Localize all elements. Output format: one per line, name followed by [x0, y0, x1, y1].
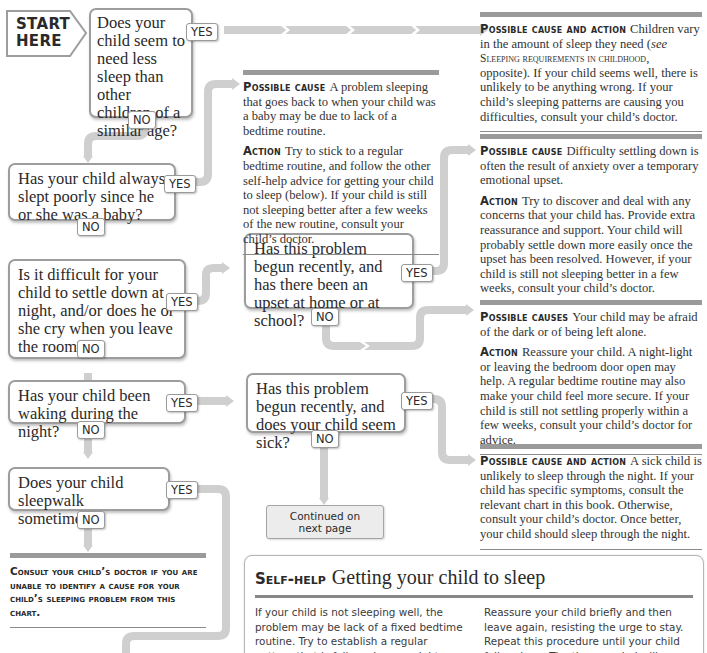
- question-recent-sick: Has this problem begun recently, and doe…: [246, 373, 406, 433]
- yes-tag: YES: [166, 293, 198, 311]
- result-divider: [243, 254, 439, 255]
- result-top-bar: [243, 70, 439, 75]
- yes-tag: YES: [166, 481, 198, 499]
- self-help-divider: [255, 595, 693, 598]
- result-top-bar: [480, 300, 702, 305]
- start-here-marker: START HERE: [6, 10, 86, 56]
- self-help-panel: Self-help Getting your child to sleep If…: [244, 555, 704, 653]
- yes-tag: YES: [164, 175, 196, 193]
- question-text: Does your child sleepwalk sometimes?: [18, 473, 123, 528]
- self-help-columns: If your child is not sleeping well, the …: [255, 605, 693, 653]
- result-top-bar: [480, 444, 702, 449]
- result-always-poor-sleeper: Possible causeA problem sleeping that go…: [243, 70, 439, 255]
- question-less-sleep: Does your child seem to need less sleep …: [89, 8, 193, 118]
- continued-next-page[interactable]: Continued on next page: [266, 505, 384, 539]
- action-text: Try to stick to a regular bedtime routin…: [243, 144, 434, 246]
- no-tag: NO: [128, 111, 156, 129]
- start-here-label: START HERE: [16, 16, 70, 50]
- result-label: Possible cause and action: [480, 22, 626, 36]
- continued-line1: Continued on: [267, 510, 383, 522]
- result-afraid-dark: Possible causesYour child may be afraid …: [480, 300, 702, 455]
- question-text: Has your child always slept poorly since…: [18, 169, 165, 224]
- no-tag: NO: [77, 218, 105, 236]
- result-need-less-sleep: Possible cause and actionChildren vary i…: [480, 12, 702, 132]
- self-help-heading: Getting your child to sleep: [332, 566, 545, 589]
- question-waking-night: Has your child been waking during the ni…: [8, 380, 186, 424]
- result-sick-child: Possible cause and actionA sick child is…: [480, 444, 702, 550]
- self-help-title: Self-help Getting your child to sleep: [255, 566, 693, 589]
- question-sleepwalk: Does your child sleepwalk sometimes?: [8, 467, 170, 511]
- cross-reference: Sleeping requirements in childhood: [480, 52, 646, 64]
- result-label: Possible cause and action: [480, 454, 626, 468]
- yes-tag: YES: [401, 264, 433, 282]
- self-help-column-1: If your child is not sleeping well, the …: [255, 605, 464, 653]
- note-divider: [10, 627, 206, 628]
- result-top-bar: [480, 134, 702, 139]
- action-text: Reassure your child. A night-light or le…: [480, 345, 692, 447]
- no-tag: NO: [77, 511, 105, 529]
- result-divider: [480, 131, 702, 132]
- cause-label: Possible cause: [480, 144, 562, 158]
- action-text: Try to discover and deal with any concer…: [480, 194, 695, 296]
- self-help-kicker: Self-help: [255, 570, 326, 588]
- yes-tag: YES: [166, 394, 198, 412]
- yes-tag: YES: [186, 23, 218, 41]
- cause-label: Possible cause: [243, 80, 325, 94]
- question-always-slept-poorly: Has your child always slept poorly since…: [8, 163, 176, 221]
- no-tag: NO: [77, 421, 105, 439]
- result-emotional-upset: Possible causeDifficulty settling down i…: [480, 134, 702, 304]
- cause-label: Possible causes: [480, 310, 568, 324]
- note-top-bar: [10, 553, 206, 558]
- action-label: Action: [243, 144, 281, 158]
- no-tag: NO: [311, 308, 339, 326]
- no-tag: NO: [77, 340, 105, 358]
- self-help-column-2: Reassure your child briefly and then lea…: [484, 605, 693, 653]
- action-label: Action: [480, 194, 518, 208]
- consult-text: Consult your child’s doctor if you are u…: [10, 565, 206, 619]
- action-label: Action: [480, 345, 518, 359]
- yes-tag: YES: [401, 392, 433, 410]
- consult-doctor-note: Consult your child’s doctor if you are u…: [10, 553, 206, 628]
- see-text: see: [651, 37, 667, 51]
- result-top-bar: [480, 12, 702, 17]
- result-divider: [480, 549, 702, 550]
- continued-line2: next page: [267, 522, 383, 534]
- no-tag: NO: [311, 430, 339, 448]
